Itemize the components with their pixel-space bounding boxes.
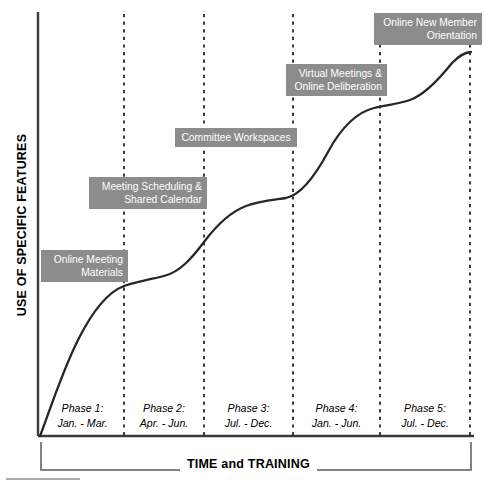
- phase-label-4: Phase 4: Jan. - Jun.: [293, 401, 380, 430]
- chart-figure: USE OF SPECIFIC FEATURES TIME and TRAINI…: [0, 0, 488, 484]
- feature-label-meeting-scheduling-shared-calendar: Meeting Scheduling & Shared Calendar: [89, 177, 207, 209]
- phase-label-3: Phase 3: Jul. - Dec.: [204, 401, 293, 430]
- feature-label-online-new-member-orientation: Online New Member Orientation: [374, 13, 482, 45]
- phase-label-2: Phase 2: Apr. - Jun.: [124, 401, 204, 430]
- x-axis-title: TIME and TRAINING: [180, 457, 317, 471]
- feature-label-virtual-meetings-online-deliberation: Virtual Meetings & Online Deliberation: [286, 64, 387, 96]
- feature-label-committee-workspaces: Committee Workspaces: [175, 128, 297, 147]
- trend-curve: [40, 52, 471, 436]
- phase-label-1: Phase 1: Jan. - Mar.: [41, 401, 124, 430]
- phase-label-5: Phase 5: Jul. - Dec.: [380, 401, 470, 430]
- y-axis-title: USE OF SPECIFIC FEATURES: [15, 115, 29, 335]
- feature-label-online-meeting-materials: Online Meeting Materials: [41, 250, 128, 282]
